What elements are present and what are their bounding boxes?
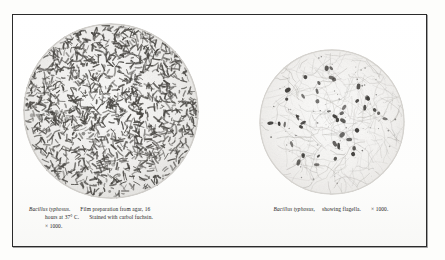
species-name-left: Bacillus typhosus.	[29, 206, 70, 212]
photomicrograph-bacillus-typhosus-film-preparation	[23, 23, 199, 199]
caption-left: Bacillus typhosus. Film preparation from…	[29, 205, 219, 230]
plate-page: Bacillus typhosus. Film preparation from…	[0, 0, 445, 260]
plate-frame: Bacillus typhosus. Film preparation from…	[12, 14, 427, 247]
figure-right: Bacillus typhosus, showing flagella. × 1…	[241, 21, 421, 241]
caption-right-magnification: × 1000.	[371, 206, 388, 212]
photomicrograph-bacillus-typhosus-showing-flagella	[259, 49, 405, 195]
caption-right-description: showing flagella.	[322, 206, 361, 212]
figure-left: Bacillus typhosus. Film preparation from…	[19, 21, 219, 241]
caption-left-line2-stain: Stained with carbol fuchsin.	[89, 214, 153, 220]
caption-right: Bacillus typhosus, showing flagella. × 1…	[241, 205, 421, 213]
caption-left-magnification: × 1000.	[45, 223, 62, 229]
caption-left-line2-text: hours at 37° C.	[45, 214, 79, 220]
species-name-right: Bacillus typhosus,	[274, 206, 315, 212]
caption-left-line1-text: Film preparation from agar, 16	[80, 206, 150, 212]
